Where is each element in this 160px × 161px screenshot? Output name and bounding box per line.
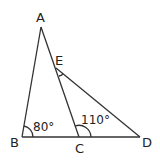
point-label-e: E [55,53,63,68]
angle-label-c: 110° [81,113,110,127]
angle-arc-e [59,74,63,76]
point-label-d: D [142,135,152,150]
angle-label-b: 80° [33,120,54,134]
point-label-a: A [36,10,45,25]
geometry-diagram: A B C D E 80° 110° [0,0,160,161]
angle-arc-b [24,126,33,137]
point-label-b: B [10,135,19,150]
point-label-c: C [75,141,84,156]
triangle-figure: A B C D E 80° 110° [0,0,160,161]
